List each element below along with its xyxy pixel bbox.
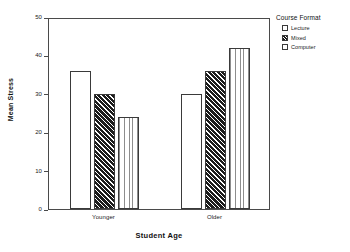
legend-items: LectureMixedComputer bbox=[276, 24, 348, 51]
legend-item-mixed: Mixed bbox=[282, 34, 348, 42]
legend-swatch-mixed bbox=[282, 35, 288, 41]
y-tick-label: 50 bbox=[35, 13, 42, 22]
x-axis-tick-label: Younger bbox=[74, 213, 134, 222]
y-axis-title: Mean Stress bbox=[7, 70, 14, 130]
plot-area bbox=[48, 18, 270, 210]
bar-older-lecture bbox=[181, 94, 202, 209]
bar-chart: 01020304050 Mean Stress YoungerOlder Stu… bbox=[0, 0, 350, 252]
y-tick-label: 10 bbox=[35, 167, 42, 176]
legend-swatch-computer bbox=[282, 44, 288, 50]
legend-label: Lecture bbox=[291, 24, 310, 32]
legend-item-computer: Computer bbox=[282, 43, 348, 51]
bar-younger-computer bbox=[118, 117, 139, 209]
x-axis-tick-label: Older bbox=[185, 213, 245, 222]
x-axis-title: Student Age bbox=[48, 231, 270, 240]
y-tick-label: 30 bbox=[35, 90, 42, 99]
legend-label: Mixed bbox=[291, 34, 306, 42]
bar-younger-lecture bbox=[70, 71, 91, 209]
bar-older-computer bbox=[229, 48, 250, 209]
legend: Course Format LectureMixedComputer bbox=[276, 13, 348, 53]
legend-title: Course Format bbox=[276, 13, 348, 22]
legend-item-lecture: Lecture bbox=[282, 24, 348, 32]
legend-swatch-lecture bbox=[282, 25, 288, 31]
y-tick-label: 0 bbox=[39, 205, 42, 214]
bar-younger-mixed bbox=[94, 94, 115, 209]
y-axis: 01020304050 Mean Stress bbox=[0, 0, 48, 252]
bar-older-mixed bbox=[205, 71, 226, 209]
y-tick-label: 40 bbox=[35, 51, 42, 60]
legend-label: Computer bbox=[291, 43, 316, 51]
y-tick-label: 20 bbox=[35, 128, 42, 137]
